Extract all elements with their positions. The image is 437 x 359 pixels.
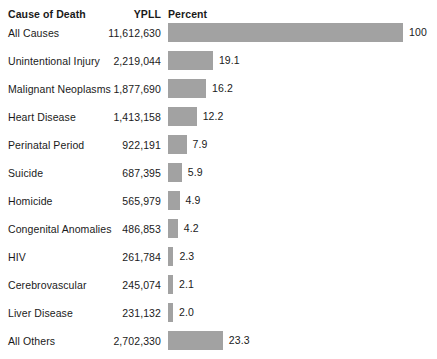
percent-bar	[168, 219, 178, 238]
row-value-ypll: 486,853	[0, 222, 161, 236]
percent-bar	[168, 23, 403, 42]
bar-value-label: 16.2	[212, 81, 233, 95]
row-value-ypll: 11,612,630	[0, 26, 161, 40]
table-row: All Others2,702,33023.3	[0, 330, 437, 352]
bar-value-label: 2.0	[179, 305, 194, 319]
percent-bar	[168, 191, 180, 210]
table-row: Unintentional Injury2,219,04419.1	[0, 50, 437, 72]
table-row: Cerebrovascular245,0742.1	[0, 274, 437, 296]
table-row: Malignant Neoplasms1,877,69016.2	[0, 78, 437, 100]
row-value-ypll: 231,132	[0, 306, 161, 320]
bar-value-label: 2.3	[179, 249, 194, 263]
row-value-ypll: 2,219,044	[0, 54, 161, 68]
ypll-bar-chart: Cause of Death YPLL Percent All Causes11…	[0, 0, 437, 359]
bar-value-label: 12.2	[203, 109, 224, 123]
bar-value-label: 4.2	[184, 221, 199, 235]
row-value-ypll: 1,413,158	[0, 110, 161, 124]
table-row: Perinatal Period922,1917.9	[0, 134, 437, 156]
table-row: Homicide565,9794.9	[0, 190, 437, 212]
table-row: All Causes11,612,630100	[0, 22, 437, 44]
row-value-ypll: 565,979	[0, 194, 161, 208]
table-row: Suicide687,3955.9	[0, 162, 437, 184]
percent-bar	[168, 303, 173, 322]
column-header-percent: Percent	[168, 7, 207, 21]
percent-bar	[168, 331, 223, 350]
table-row: Liver Disease231,1322.0	[0, 302, 437, 324]
percent-bar	[168, 107, 197, 126]
table-row: HIV261,7842.3	[0, 246, 437, 268]
bar-value-label: 7.9	[193, 137, 208, 151]
percent-bar	[168, 275, 173, 294]
table-row: Heart Disease1,413,15812.2	[0, 106, 437, 128]
bar-value-label: 2.1	[179, 277, 194, 291]
bar-value-label: 4.9	[186, 193, 201, 207]
percent-bar	[168, 163, 182, 182]
percent-bar	[168, 247, 173, 266]
row-value-ypll: 2,702,330	[0, 334, 161, 348]
bar-value-label: 19.1	[219, 53, 240, 67]
row-value-ypll: 687,395	[0, 166, 161, 180]
table-header-row: Cause of Death YPLL Percent	[0, 7, 437, 21]
row-value-ypll: 1,877,690	[0, 82, 161, 96]
row-value-ypll: 261,784	[0, 250, 161, 264]
percent-bar	[168, 135, 187, 154]
percent-bar	[168, 79, 206, 98]
bar-value-label: 23.3	[229, 333, 250, 347]
bar-value-label: 5.9	[188, 165, 203, 179]
table-row: Congenital Anomalies486,8534.2	[0, 218, 437, 240]
row-value-ypll: 245,074	[0, 278, 161, 292]
column-header-ypll: YPLL	[0, 7, 161, 21]
row-value-ypll: 922,191	[0, 138, 161, 152]
percent-bar	[168, 51, 213, 70]
bar-value-label: 100	[409, 25, 427, 39]
